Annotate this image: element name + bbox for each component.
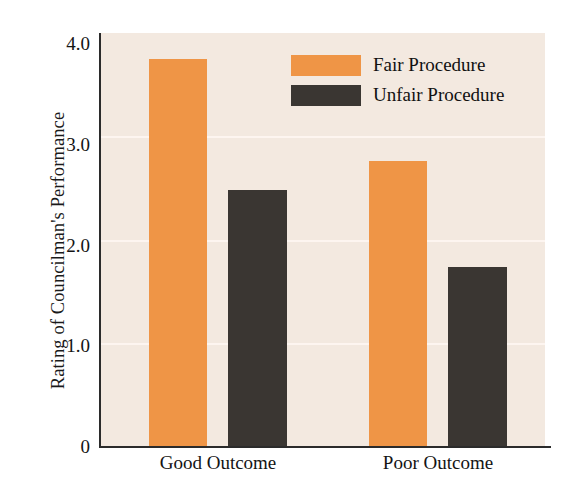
y-tick-label-2: 2.0 bbox=[32, 236, 90, 255]
y-tick-label-1: 1.0 bbox=[32, 336, 90, 355]
y-axis-tick-labels: 4.0 3.0 2.0 1.0 0 bbox=[27, 0, 90, 499]
legend-label-fair-procedure: Fair Procedure bbox=[373, 54, 485, 76]
legend-entry-fair-procedure: Fair Procedure bbox=[291, 50, 504, 80]
bar-good-outcome-fair-procedure bbox=[149, 59, 207, 446]
x-category-label-poor-outcome: Poor Outcome bbox=[338, 452, 538, 474]
legend-swatch-fair-procedure bbox=[291, 55, 361, 76]
legend-swatch-unfair-procedure bbox=[291, 85, 361, 106]
legend: Fair Procedure Unfair Procedure bbox=[291, 50, 504, 110]
bar-good-outcome-unfair-procedure bbox=[228, 190, 287, 446]
y-axis-line bbox=[99, 33, 101, 447]
bar-chart: Rating of Councilman's Performance 4.0 3… bbox=[0, 0, 580, 499]
legend-label-unfair-procedure: Unfair Procedure bbox=[373, 84, 504, 106]
bar-poor-outcome-unfair-procedure bbox=[448, 267, 507, 446]
x-axis-line bbox=[99, 446, 551, 448]
y-tick-label-0: 0 bbox=[32, 437, 90, 456]
x-category-label-good-outcome: Good Outcome bbox=[118, 452, 318, 474]
legend-entry-unfair-procedure: Unfair Procedure bbox=[291, 80, 504, 110]
y-tick-label-4: 4.0 bbox=[32, 34, 90, 53]
bar-poor-outcome-fair-procedure bbox=[369, 161, 427, 446]
y-tick-label-3: 3.0 bbox=[32, 135, 90, 154]
